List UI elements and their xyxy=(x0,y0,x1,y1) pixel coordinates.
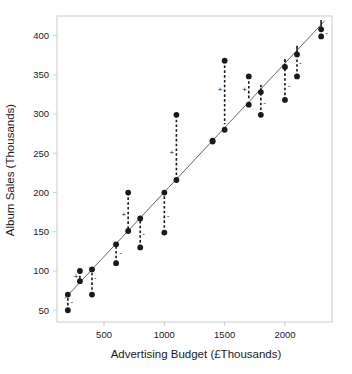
residual-sign: - xyxy=(299,58,302,67)
y-axis-title: Album Sales (Thousands) xyxy=(4,104,16,236)
data-point xyxy=(258,89,264,95)
data-point xyxy=(246,74,252,80)
residual-sign: - xyxy=(119,248,122,257)
x-tick-label: 500 xyxy=(96,329,112,340)
residual-sign: - xyxy=(263,98,266,107)
data-point xyxy=(137,216,143,222)
y-tick-label: 400 xyxy=(33,30,49,41)
y-tick-label: 300 xyxy=(33,108,49,119)
x-tick-label: 1500 xyxy=(214,329,235,340)
y-tick-label: 250 xyxy=(33,148,49,159)
data-point xyxy=(222,127,228,133)
data-point xyxy=(161,230,167,236)
y-tick-label: 150 xyxy=(33,226,49,237)
residual-sign: - xyxy=(325,28,328,37)
y-tick-label: 100 xyxy=(33,265,49,276)
residual-sign: - xyxy=(70,297,73,306)
residual-sign: + xyxy=(218,85,223,94)
data-point xyxy=(222,58,228,64)
data-point xyxy=(65,307,71,313)
residual-sign: - xyxy=(94,273,97,282)
residual-sign: - xyxy=(288,81,291,90)
data-point xyxy=(318,26,324,32)
data-point xyxy=(210,139,216,145)
data-point xyxy=(282,64,288,70)
data-point xyxy=(258,112,264,118)
data-point xyxy=(125,228,131,234)
x-axis-title: Advertising Budget (£Thousands) xyxy=(111,348,282,360)
data-point xyxy=(282,97,288,103)
regression-residual-chart: 500100015002000 50100150200250300350400 … xyxy=(0,0,352,374)
data-point xyxy=(89,292,95,298)
residual-sign: + xyxy=(169,148,174,157)
data-point xyxy=(161,190,167,196)
y-tick-label: 200 xyxy=(33,187,49,198)
data-point xyxy=(246,102,252,108)
data-point xyxy=(89,267,95,273)
data-point xyxy=(294,74,300,80)
data-point xyxy=(137,245,143,251)
residual-sign: + xyxy=(74,272,79,281)
residual-sign: - xyxy=(167,211,170,220)
x-tick-label: 2000 xyxy=(274,329,295,340)
residual-sign: - xyxy=(142,229,145,238)
data-point xyxy=(318,34,324,40)
residual-sign: + xyxy=(242,85,247,94)
chart-canvas: 500100015002000 50100150200250300350400 … xyxy=(0,0,352,374)
data-point xyxy=(113,241,119,247)
y-tick-label: 350 xyxy=(33,69,49,80)
data-point xyxy=(113,260,119,266)
residual-sign: + xyxy=(122,210,127,219)
data-point xyxy=(125,190,131,196)
y-tick-label: 50 xyxy=(38,305,49,316)
x-tick-label: 1000 xyxy=(154,329,175,340)
data-point xyxy=(174,177,180,183)
data-point xyxy=(294,52,300,58)
data-point xyxy=(174,112,180,118)
